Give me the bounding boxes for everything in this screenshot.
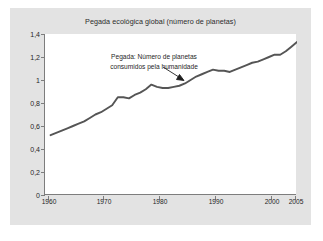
x-tick-label: 2005	[289, 199, 304, 206]
x-axis-tick-labels: 1960 1970 1980 1990 2000 2005	[10, 199, 311, 211]
x-tick-label: 1980	[153, 199, 168, 206]
figure-panel: Pegada ecológica global (número de plane…	[10, 8, 311, 225]
x-tick-label: 2000	[265, 199, 280, 206]
x-tick-label: 1990	[209, 199, 224, 206]
x-tick-label: 1970	[97, 199, 112, 206]
annotation-line-2: consumidos pela humanidade	[88, 62, 220, 72]
x-tick-label: 1960	[42, 199, 57, 206]
series-annotation: Pegada: Número de planetas consumidos pe…	[88, 52, 220, 71]
annotation-line-1: Pegada: Número de planetas	[88, 52, 220, 62]
